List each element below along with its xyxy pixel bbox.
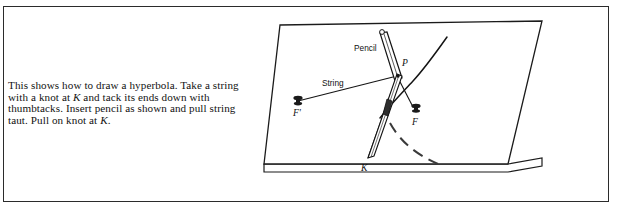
- point-p-marker: [396, 74, 399, 77]
- diagram-canvas: Pencil String P F' F K: [250, 6, 610, 202]
- caption-italic-k-second: K: [100, 114, 108, 126]
- thumbtack-fprime-base: [294, 102, 302, 106]
- label-string: String: [322, 78, 344, 88]
- pencil-eraser-end: [380, 30, 385, 35]
- caption-line-2-before-k: knot at: [39, 91, 73, 103]
- hyperbola-diagram: Pencil String P F' F K: [250, 6, 610, 202]
- caption-line-3-after-k: .: [108, 114, 111, 126]
- thumbtack-f-base: [412, 109, 420, 112]
- label-pencil: Pencil: [354, 43, 377, 53]
- label-focus-f: F: [411, 116, 418, 127]
- label-point-p: P: [401, 57, 408, 68]
- figure-caption: This shows how to draw a hyperbola. Take…: [8, 80, 258, 126]
- figure-root: This shows how to draw a hyperbola. Take…: [0, 0, 617, 217]
- label-focus-f-prime: F': [292, 107, 302, 118]
- label-knot-k: K: [360, 162, 368, 173]
